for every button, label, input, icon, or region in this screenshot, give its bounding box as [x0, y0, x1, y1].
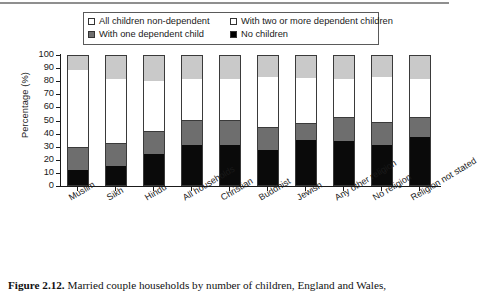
bar-segment-with-one-dependent-child — [106, 144, 126, 166]
y-tick-10 — [56, 173, 60, 174]
page-top-rule — [0, 2, 449, 4]
x-tick-7 — [343, 187, 344, 191]
x-tick-3 — [191, 187, 192, 191]
bar-segment-no-children — [334, 141, 354, 185]
bar-segment-all-children-non-dependent — [68, 56, 88, 70]
bar-muslim[interactable] — [67, 55, 89, 186]
y-tick-label-0: 0 — [4, 181, 54, 190]
bar-jewish[interactable] — [295, 55, 317, 186]
y-tick-70 — [56, 94, 60, 95]
x-tick-8 — [381, 187, 382, 191]
legend-label-one-dependent: With one dependent child — [99, 29, 204, 40]
legend-label-all-non-dependent: All children non-dependent — [99, 16, 210, 27]
x-tick-0 — [77, 187, 78, 191]
bar-segment-all-children-non-dependent — [334, 56, 354, 79]
y-tick-label-60: 60 — [4, 102, 54, 111]
bar-segment-no-children — [144, 154, 164, 185]
bar-segment-with-two-or-more-dependent-children — [334, 79, 354, 118]
bar-segment-no-children — [258, 150, 278, 185]
bar-segment-with-two-or-more-dependent-children — [258, 77, 278, 129]
figure-caption: Figure 2.12. Married couple households b… — [8, 279, 442, 292]
y-tick-label-20: 20 — [4, 155, 54, 164]
bar-segment-with-one-dependent-child — [220, 121, 240, 146]
bar-all-households[interactable] — [181, 55, 203, 186]
x-tick-4 — [229, 187, 230, 191]
legend-item-all-non-dependent: All children non-dependent — [88, 16, 228, 27]
bar-segment-no-children — [296, 140, 316, 185]
y-tick-50 — [56, 121, 60, 122]
y-tick-0 — [56, 186, 60, 187]
bar-segment-all-children-non-dependent — [296, 56, 316, 78]
legend-swatch-two-or-more-dependent-icon — [230, 18, 237, 25]
bar-segment-all-children-non-dependent — [410, 56, 430, 79]
y-tick-20 — [56, 160, 60, 161]
bar-segment-with-two-or-more-dependent-children — [372, 77, 392, 123]
bar-segment-all-children-non-dependent — [106, 56, 126, 79]
bar-segment-all-children-non-dependent — [372, 56, 392, 77]
x-tick-1 — [115, 187, 116, 191]
legend-swatch-all-non-dependent-icon — [88, 18, 95, 25]
bar-segment-with-two-or-more-dependent-children — [68, 70, 88, 147]
x-tick-6 — [305, 187, 306, 191]
y-tick-label-100: 100 — [4, 50, 54, 59]
bar-religion-not-stated[interactable] — [409, 55, 431, 186]
bar-segment-with-two-or-more-dependent-children — [410, 79, 430, 118]
legend-label-no-children: No children — [241, 29, 288, 40]
y-tick-90 — [56, 68, 60, 69]
y-tick-label-40: 40 — [4, 129, 54, 138]
bar-segment-with-one-dependent-child — [410, 118, 430, 137]
bar-any-other-religion[interactable] — [333, 55, 355, 186]
bar-segment-with-one-dependent-child — [68, 148, 88, 170]
y-tick-60 — [56, 107, 60, 108]
x-tick-5 — [267, 187, 268, 191]
x-tick-9 — [419, 187, 420, 191]
legend-swatch-one-dependent-icon — [88, 31, 95, 38]
bar-sikh[interactable] — [105, 55, 127, 186]
bar-segment-with-two-or-more-dependent-children — [182, 79, 202, 120]
legend-item-two-or-more-dependent: With two or more dependent children — [230, 16, 393, 27]
legend-item-one-dependent: With one dependent child — [88, 29, 228, 40]
bar-segment-with-one-dependent-child — [296, 124, 316, 139]
bar-segment-with-two-or-more-dependent-children — [106, 79, 126, 144]
y-tick-40 — [56, 134, 60, 135]
x-tick-2 — [153, 187, 154, 191]
bar-segment-all-children-non-dependent — [144, 56, 164, 81]
bar-segment-with-two-or-more-dependent-children — [144, 81, 164, 133]
bar-segment-all-children-non-dependent — [258, 56, 278, 77]
bar-segment-all-children-non-dependent — [182, 56, 202, 79]
bar-hindu[interactable] — [143, 55, 165, 186]
y-tick-label-50: 50 — [4, 116, 54, 125]
legend-item-no-children: No children — [230, 29, 393, 40]
chart-legend: All children non-dependent With two or m… — [83, 12, 379, 45]
bar-segment-with-one-dependent-child — [334, 118, 354, 141]
y-tick-label-90: 90 — [4, 63, 54, 72]
stacked-bar-chart: Percentage (%) 0102030405060708090100 Mu… — [0, 44, 449, 254]
bar-segment-with-one-dependent-child — [372, 123, 392, 145]
bar-segment-with-one-dependent-child — [182, 121, 202, 146]
bar-buddhist[interactable] — [257, 55, 279, 186]
legend-label-two-or-more-dependent: With two or more dependent children — [241, 16, 393, 27]
y-tick-80 — [56, 81, 60, 82]
bar-segment-all-children-non-dependent — [220, 56, 240, 79]
bar-segment-with-two-or-more-dependent-children — [220, 79, 240, 120]
y-tick-label-30: 30 — [4, 142, 54, 151]
figure-caption-text: Married couple households by number of c… — [65, 279, 386, 291]
bar-segment-no-children — [182, 145, 202, 185]
y-tick-label-10: 10 — [4, 168, 54, 177]
bar-segment-no-children — [410, 137, 430, 185]
bar-segment-with-two-or-more-dependent-children — [296, 78, 316, 124]
figure-caption-label: Figure 2.12. — [8, 279, 65, 291]
y-tick-label-80: 80 — [4, 76, 54, 85]
bar-segment-with-one-dependent-child — [258, 128, 278, 150]
y-tick-label-70: 70 — [4, 89, 54, 98]
y-tick-100 — [56, 55, 60, 56]
y-tick-30 — [56, 147, 60, 148]
legend-swatch-no-children-icon — [230, 31, 237, 38]
bar-segment-no-children — [106, 166, 126, 185]
bar-segment-with-one-dependent-child — [144, 132, 164, 154]
